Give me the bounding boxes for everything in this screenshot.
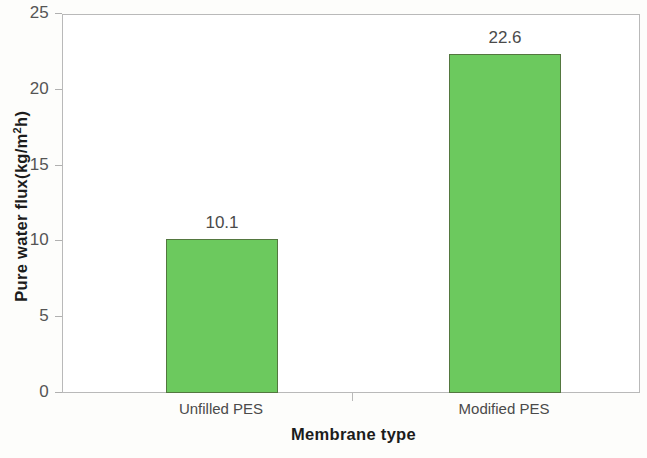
- x-axis-center-tick: [352, 393, 353, 401]
- y-tick-label: 0: [39, 382, 49, 402]
- y-tick-mark: [55, 165, 62, 166]
- bar-modified-pes: [449, 54, 561, 393]
- y-tick-label: 15: [30, 155, 49, 175]
- y-axis-title-tail: h): [12, 111, 30, 127]
- bar-chart: 10.1 22.6 25 20 15 10 5 0: [0, 0, 647, 458]
- y-axis-title: Pure water flux(kg/m2h): [11, 56, 32, 356]
- y-tick-mark: [55, 13, 62, 14]
- y-tick-label: 5: [39, 306, 49, 326]
- y-tick-mark: [55, 392, 62, 393]
- y-tick-label: 25: [30, 3, 49, 23]
- x-category-label-modified-pes: Modified PES: [448, 400, 560, 417]
- plot-area: 10.1 22.6: [62, 14, 640, 393]
- x-category-label-unfilled-pes: Unfilled PES: [165, 400, 277, 417]
- y-tick-mark: [55, 89, 62, 90]
- y-tick-mark: [55, 240, 62, 241]
- y-tick-mark: [55, 316, 62, 317]
- x-axis-title: Membrane type: [30, 425, 647, 444]
- y-tick-label: 20: [30, 79, 49, 99]
- y-axis-title-head: Pure water flux(kg/m: [12, 133, 30, 301]
- y-axis-title-superscript: 2: [11, 127, 23, 133]
- y-tick-label: 10: [30, 230, 49, 250]
- bar-unfilled-pes: [166, 239, 278, 393]
- bar-value-label-unfilled-pes: 10.1: [166, 213, 278, 233]
- bar-value-label-modified-pes: 22.6: [449, 28, 561, 48]
